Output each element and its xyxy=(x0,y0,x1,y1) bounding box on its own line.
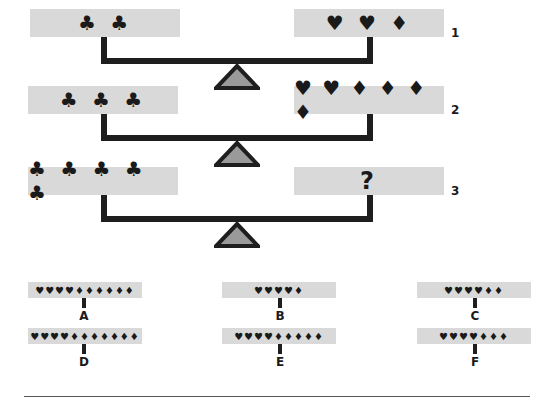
option-e-label[interactable]: E xyxy=(270,355,290,369)
scale-1-fulcrum-icon xyxy=(214,64,260,90)
option-b-symbols[interactable]: ♥♥♥♥♦ xyxy=(222,282,336,298)
scale-1-number: 1 xyxy=(451,26,459,40)
option-a-symbols[interactable]: ♥♥♥♥♦♦♦♦♦♦ xyxy=(28,282,142,298)
option-d-symbols[interactable]: ♥♥♥♥♦♦♦♦♦♦♦ xyxy=(28,328,142,344)
scale-3-left-pan: ♣ ♣ ♣ ♣ ♣ xyxy=(28,167,178,195)
scale-2-left-pan: ♣ ♣ ♣ xyxy=(28,86,178,114)
option-f-stem xyxy=(473,344,477,354)
option-b-stem xyxy=(278,298,282,308)
option-d-stem xyxy=(82,344,86,354)
scale-2-fulcrum-icon xyxy=(214,141,260,167)
option-c-stem xyxy=(473,298,477,308)
option-e-stem xyxy=(278,344,282,354)
scale-1-right-pan: ♥ ♥ ♦ xyxy=(294,9,444,37)
option-d-label[interactable]: D xyxy=(74,355,94,369)
scale-3-fulcrum-icon xyxy=(214,222,260,248)
scale-3-number: 3 xyxy=(451,184,459,198)
scale-1-left-pan: ♣ ♣ xyxy=(30,9,180,37)
option-a-label[interactable]: A xyxy=(74,309,94,323)
scale-2-number: 2 xyxy=(451,103,459,117)
bottom-divider xyxy=(24,396,530,397)
option-c-label[interactable]: C xyxy=(465,309,485,323)
option-b-label[interactable]: B xyxy=(270,309,290,323)
option-a-stem xyxy=(82,298,86,308)
option-f-symbols[interactable]: ♥♥♥♥♦♦♦ xyxy=(417,328,531,344)
option-e-symbols[interactable]: ♥♥♥♥♦♦♦♦♦ xyxy=(222,328,336,344)
option-c-symbols[interactable]: ♥♥♥♥♦♦ xyxy=(417,282,531,298)
option-f-label[interactable]: F xyxy=(465,355,485,369)
scale-2-right-pan: ♥ ♥ ♦ ♦ ♦ ♦ xyxy=(294,86,444,114)
scale-3-right-pan-unknown: ? xyxy=(294,167,444,195)
